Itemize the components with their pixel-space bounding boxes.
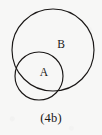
set-label-b: B (57, 38, 65, 50)
figure-caption: (4b) (0, 111, 102, 126)
set-circle-b (12, 9, 94, 91)
set-label-a: A (40, 66, 49, 78)
figure-container: B A (4b) (0, 0, 102, 135)
